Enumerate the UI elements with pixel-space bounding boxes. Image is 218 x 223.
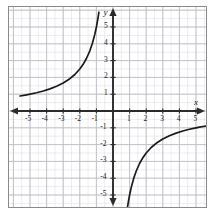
plot-frame [8, 6, 207, 208]
y-tick-label-3: 3 [104, 56, 108, 64]
y-tick-label-neg1: -1 [100, 123, 106, 131]
x-tick-label-5: 5 [193, 115, 197, 123]
y-tick-label-neg4: -4 [100, 173, 106, 181]
x-tick-label-2: 2 [144, 115, 148, 123]
x-tick-label-neg2: -2 [75, 115, 81, 123]
x-tick-label-neg3: -3 [58, 115, 64, 123]
curve-layer [9, 7, 206, 207]
curve-branch-quadrant-IV [127, 126, 206, 207]
x-tick-label-neg4: -4 [42, 115, 48, 123]
y-tick-label-neg5: -5 [100, 190, 106, 198]
y-tick-label-1: 1 [104, 89, 108, 97]
y-tick-label-neg3: -3 [100, 156, 106, 164]
x-tick-label-1: 1 [127, 115, 131, 123]
y-tick-label-neg2: -2 [100, 140, 106, 148]
y-tick-label-5: 5 [104, 22, 108, 30]
curve-branch-quadrant-II [20, 12, 99, 96]
y-axis-label: y [104, 8, 108, 17]
y-tick-label-4: 4 [104, 39, 108, 47]
x-axis-label: x [194, 98, 198, 107]
x-tick-label-4: 4 [177, 115, 181, 123]
y-tick-label-2: 2 [104, 72, 108, 80]
hyperbola-graph-figure: -5-4-3-2-11234554321-1-2-3-4-5 y x [0, 0, 218, 223]
x-tick-label-neg5: -5 [25, 115, 31, 123]
x-tick-label-3: 3 [160, 115, 164, 123]
x-tick-label-neg1: -1 [91, 115, 97, 123]
